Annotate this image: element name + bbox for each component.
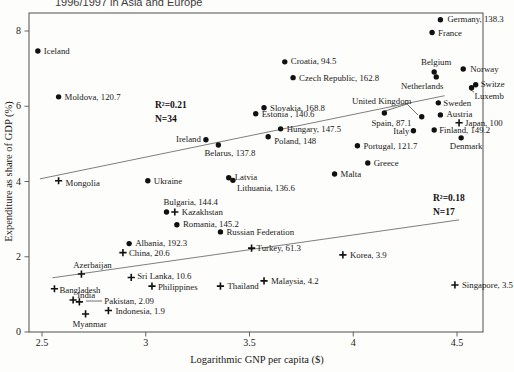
data-label-united-kingdom: United Kingdom (352, 96, 412, 106)
data-point-romania (174, 222, 179, 227)
data-point-norway (461, 66, 466, 71)
data-point-myanmar (82, 310, 89, 317)
data-label-turkey: Turkey, 61.3 (257, 243, 302, 253)
data-point-sri-lanka (128, 274, 135, 281)
data-label-portugal: Portugal, 121.7 (363, 141, 418, 151)
data-label-iceland: Iceland (44, 46, 70, 56)
data-label-bulgaria: Bulgaria, 144.4 (164, 197, 219, 207)
data-label-thailand: Thailand (227, 281, 259, 291)
y-tick-label-6: 6 (16, 100, 21, 111)
data-label-singapore: Singapore, 3.5 (462, 280, 514, 290)
data-point-czech-republic (290, 75, 295, 80)
x-tick-label-2.5: 2.5 (36, 337, 49, 348)
data-point-malaysia (260, 277, 267, 284)
data-label-pakistan: Pakistan, 2.09 (104, 296, 154, 306)
data-label-france: France (438, 28, 462, 38)
plot-canvas: 2.533.544.502468IcelandMoldova, 120.7Ger… (0, 0, 514, 372)
data-label-sri-lanka: Sri Lanka, 10.6 (137, 271, 192, 281)
scatter-plot-figure: 1996/1997 in Asia and Europe 2.533.544.5… (0, 0, 514, 372)
data-label-greece: Greece (374, 158, 399, 168)
data-point-indonesia (105, 307, 112, 314)
data-point-iceland (35, 48, 40, 53)
data-point-azerbaijan (78, 270, 85, 277)
data-point-thailand (217, 282, 224, 289)
data-label-myanmar: Myanmar (72, 319, 106, 329)
data-label-netherlands: Netherlands (401, 81, 444, 91)
data-point-france (429, 30, 434, 35)
data-label-korea: Korea, 3.9 (350, 250, 387, 260)
chart-title: 1996/1997 in Asia and Europe (55, 0, 202, 8)
europe-stats-r2: R²=0.21 (155, 100, 187, 110)
asia-stats-n: N=17 (433, 207, 455, 217)
data-point-bulgaria (164, 209, 169, 214)
data-point-korea (339, 251, 346, 258)
y-tick-label-0: 0 (16, 326, 21, 337)
data-label-azerbaijan: Azerbaijan (73, 260, 112, 270)
data-point-turkey (248, 244, 255, 251)
x-tick-label-4: 4 (351, 337, 356, 348)
data-label-albania: Albania, 192.3 (135, 238, 188, 248)
data-point-lithuania (230, 178, 235, 183)
data-label-china: China, 20.6 (129, 248, 170, 258)
data-point-greece (365, 160, 370, 165)
x-axis-title: Logarithmic GNP per capita ($) (0, 354, 514, 365)
x-tick-label-3: 3 (143, 337, 148, 348)
data-point-germany (438, 17, 443, 22)
data-point-china (119, 249, 126, 256)
data-label-estonia: Estonia , 140.6 (262, 109, 315, 119)
data-label-russian-federation: Russian Federation (226, 227, 294, 237)
data-label-indonesia: Indonesia, 1.9 (115, 306, 165, 316)
data-point-malta (332, 171, 337, 176)
data-label-belgium: Belgium (421, 57, 451, 67)
data-label-denmark: Denmark (450, 141, 483, 151)
data-point-india (70, 296, 77, 303)
data-label-philippines: Philippines (158, 282, 198, 292)
data-label-belarus: Belarus, 137.8 (204, 148, 256, 158)
data-point-singapore (451, 281, 458, 288)
data-label-kazakhstan: Kazakhstan (182, 207, 224, 217)
data-label-poland: Poland, 148 (274, 136, 317, 146)
y-tick-label-2: 2 (16, 251, 21, 262)
data-label-lithuania: Lithuania, 136.6 (237, 183, 296, 193)
data-point-austria (438, 112, 443, 117)
data-point-hungary (278, 126, 283, 131)
data-label-italy: Italy (393, 126, 410, 136)
data-point-belgium (431, 69, 436, 74)
data-point-ukraine (145, 178, 150, 183)
y-tick-label-4: 4 (16, 176, 21, 187)
data-point-russian-federation (218, 229, 223, 234)
data-point-ireland (203, 137, 208, 142)
data-point-united-kingdom (419, 114, 424, 119)
data-label-latvia: Latvia (235, 172, 258, 182)
data-label-croatia: Croatia, 94.5 (291, 56, 337, 66)
data-point-denmark (458, 135, 463, 140)
data-point-albania (126, 241, 131, 246)
data-point-kazakhstan (171, 208, 178, 215)
x-tick-label-4.5: 4.5 (451, 337, 464, 348)
data-point-luxembourg (469, 85, 474, 90)
data-label-czech-republic: Czech Republic, 162.8 (299, 73, 380, 83)
data-point-italy (411, 128, 416, 133)
data-label-malta: Malta (341, 169, 362, 179)
data-point-estonia (253, 111, 258, 116)
data-point-croatia (282, 59, 287, 64)
y-tick-label-8: 8 (16, 25, 21, 36)
data-label-japan: Japan, 100 (465, 118, 503, 128)
data-point-moldova (56, 94, 61, 99)
y-axis-title: Expenditure as share of GDP (%) (3, 87, 14, 257)
data-point-mongolia (55, 177, 62, 184)
data-label-mongolia: Mongolia (66, 178, 100, 188)
asia-stats-r2: R²=0.18 (433, 193, 465, 203)
data-point-belarus (216, 142, 221, 147)
data-label-norway: Norway (470, 64, 499, 74)
data-label-hungary: Hungary, 147.5 (287, 124, 342, 134)
data-label-sweden: Sweden (443, 98, 471, 108)
data-label-ireland: Ireland (176, 134, 202, 144)
data-label-luxembourg: Luxemb (475, 91, 505, 101)
data-label-switzerland: Switze (481, 79, 505, 89)
data-point-netherlands (434, 74, 439, 79)
data-label-germany: Germany, 138.3 (447, 14, 504, 24)
data-point-philippines (148, 282, 155, 289)
data-point-finland (431, 127, 436, 132)
data-label-moldova: Moldova, 120.7 (65, 92, 122, 102)
